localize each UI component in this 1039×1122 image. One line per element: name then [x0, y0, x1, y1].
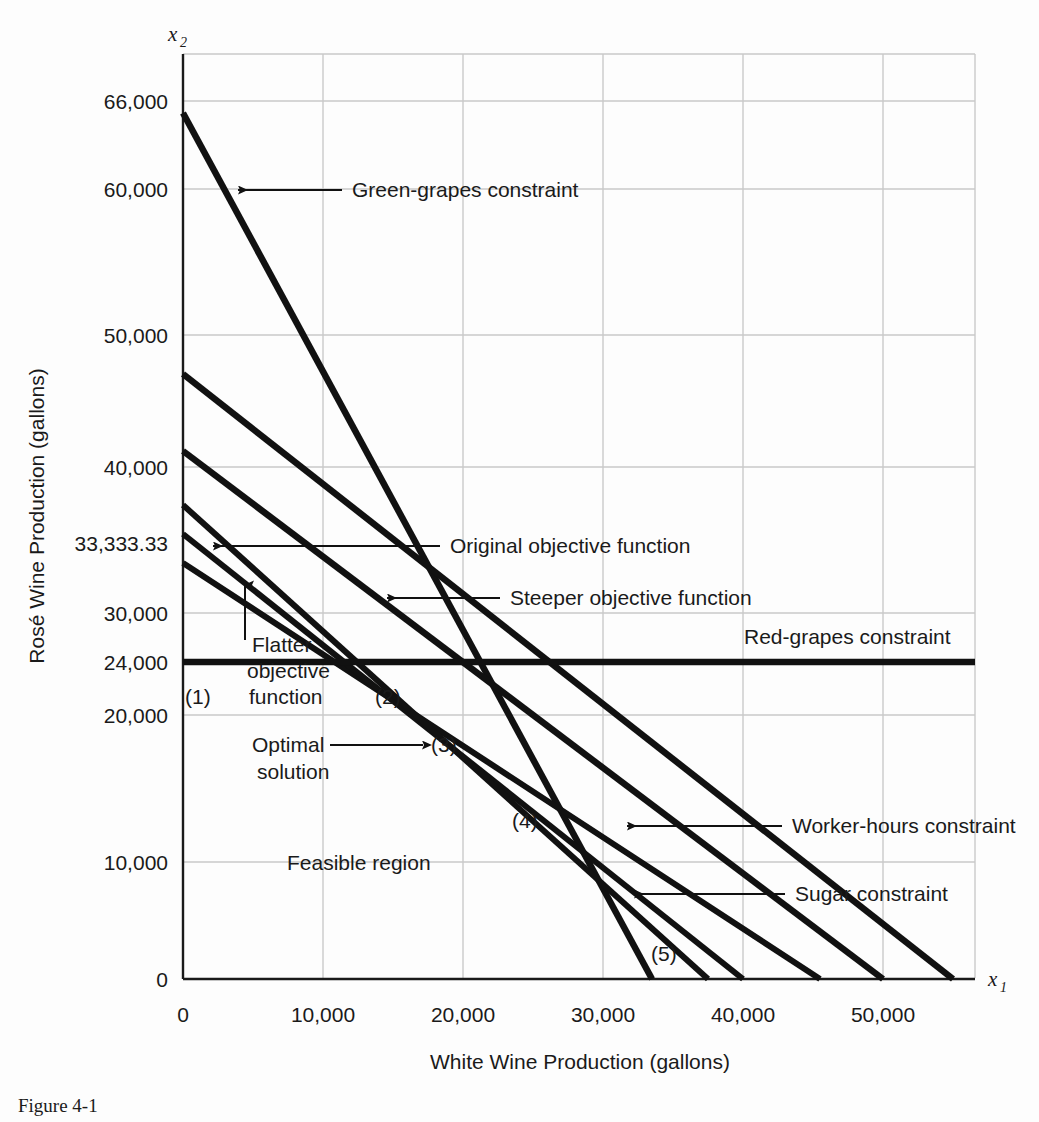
x-tick-labels: 0 10,000 20,000 30,000 40,000 50,000 [177, 1003, 915, 1026]
y-tick-20000: 20,000 [104, 704, 168, 727]
label-feasible-region: Feasible region [287, 851, 431, 874]
y-axis-variable-subscript: 2 [180, 35, 187, 50]
figure-container: 66,000 60,000 50,000 40,000 33,333.33 30… [0, 0, 1039, 1122]
flatter-line-1: Flatter [252, 633, 312, 656]
y-tick-24000: 24,000 [104, 651, 168, 674]
x-tick-50000: 50,000 [851, 1003, 915, 1026]
x-tick-0: 0 [177, 1003, 189, 1026]
vertex-label-4: (4) [512, 809, 538, 832]
y-axis-variable: x [167, 22, 178, 46]
optimal-line-1: Optimal [252, 733, 324, 756]
flatter-line-3: function [249, 685, 323, 708]
vertex-label-2: (2) [375, 685, 401, 708]
optimal-line-2: solution [257, 760, 329, 783]
axis-variable-x2: x 2 [167, 22, 187, 50]
y-tick-33333: 33,333.33 [75, 532, 168, 555]
flatter-line-2: objective [247, 659, 330, 682]
label-optimal-solution: Optimal solution [252, 733, 329, 783]
vertex-label-1: (1) [185, 685, 211, 708]
label-original-objective-function: Original objective function [450, 534, 690, 557]
x-axis-variable: x [987, 967, 998, 991]
y-tick-66000: 66,000 [104, 90, 168, 113]
y-tick-30000: 30,000 [104, 602, 168, 625]
figure-caption: Figure 4-1 [18, 1095, 98, 1116]
vertex-label-5: (5) [651, 942, 677, 965]
x-tick-40000: 40,000 [711, 1003, 775, 1026]
y-tick-labels: 66,000 60,000 50,000 40,000 33,333.33 30… [75, 90, 168, 991]
label-sugar-constraint: Sugar constraint [795, 882, 948, 905]
y-tick-60000: 60,000 [104, 178, 168, 201]
linear-programming-graph: 66,000 60,000 50,000 40,000 33,333.33 30… [0, 0, 1039, 1122]
y-tick-10000: 10,000 [104, 851, 168, 874]
x-tick-10000: 10,000 [291, 1003, 355, 1026]
x-tick-30000: 30,000 [571, 1003, 635, 1026]
y-tick-50000: 50,000 [104, 324, 168, 347]
label-steeper-objective-function: Steeper objective function [510, 586, 752, 609]
y-tick-40000: 40,000 [104, 456, 168, 479]
label-red-grapes-constraint: Red-grapes constraint [744, 625, 951, 648]
x-tick-20000: 20,000 [431, 1003, 495, 1026]
x-axis-title: White Wine Production (gallons) [430, 1050, 730, 1073]
y-axis-title: Rosé Wine Production (gallons) [25, 368, 48, 663]
axis-variable-x1: x 1 [987, 967, 1007, 995]
x-axis-variable-subscript: 1 [1000, 980, 1007, 995]
y-tick-0: 0 [156, 968, 168, 991]
vertex-label-3: (3) [431, 733, 457, 756]
label-green-grapes-constraint: Green-grapes constraint [352, 178, 579, 201]
label-worker-hours-constraint: Worker-hours constraint [792, 814, 1016, 837]
